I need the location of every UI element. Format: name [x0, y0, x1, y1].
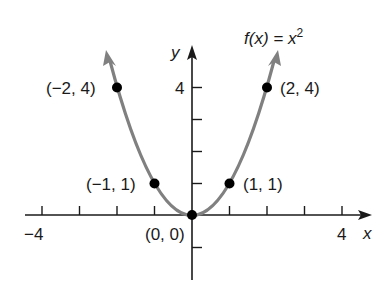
- graph-canvas: (−2, 4) (−1, 1) (0, 0) (1, 1) (2, 4) −4 …: [0, 0, 388, 294]
- function-label-exponent: 2: [296, 26, 303, 40]
- label-point-2-4: (2, 4): [280, 79, 320, 98]
- label-point-neg2-4: (−2, 4): [46, 79, 96, 98]
- function-label: f(x) = x2: [244, 26, 303, 48]
- y-axis: [187, 45, 202, 280]
- y-ticks: [192, 88, 202, 248]
- point-1-1: [225, 179, 235, 189]
- function-label-text: f(x) = x: [244, 29, 297, 48]
- y-tick-label-max: 4: [175, 79, 184, 98]
- parabola-graph: (−2, 4) (−1, 1) (0, 0) (1, 1) (2, 4) −4 …: [0, 0, 388, 294]
- y-axis-label: y: [170, 43, 181, 62]
- x-axis-label: x: [362, 224, 372, 243]
- label-point-origin: (0, 0): [145, 225, 185, 244]
- label-point-1-1: (1, 1): [243, 175, 283, 194]
- x-tick-label-min: −4: [24, 225, 43, 244]
- x-tick-label-max: 4: [337, 225, 346, 244]
- point-origin: [187, 210, 197, 220]
- point-neg2-4: [112, 83, 122, 93]
- point-2-4: [262, 83, 272, 93]
- label-point-neg1-1: (−1, 1): [86, 175, 136, 194]
- point-neg1-1: [150, 179, 160, 189]
